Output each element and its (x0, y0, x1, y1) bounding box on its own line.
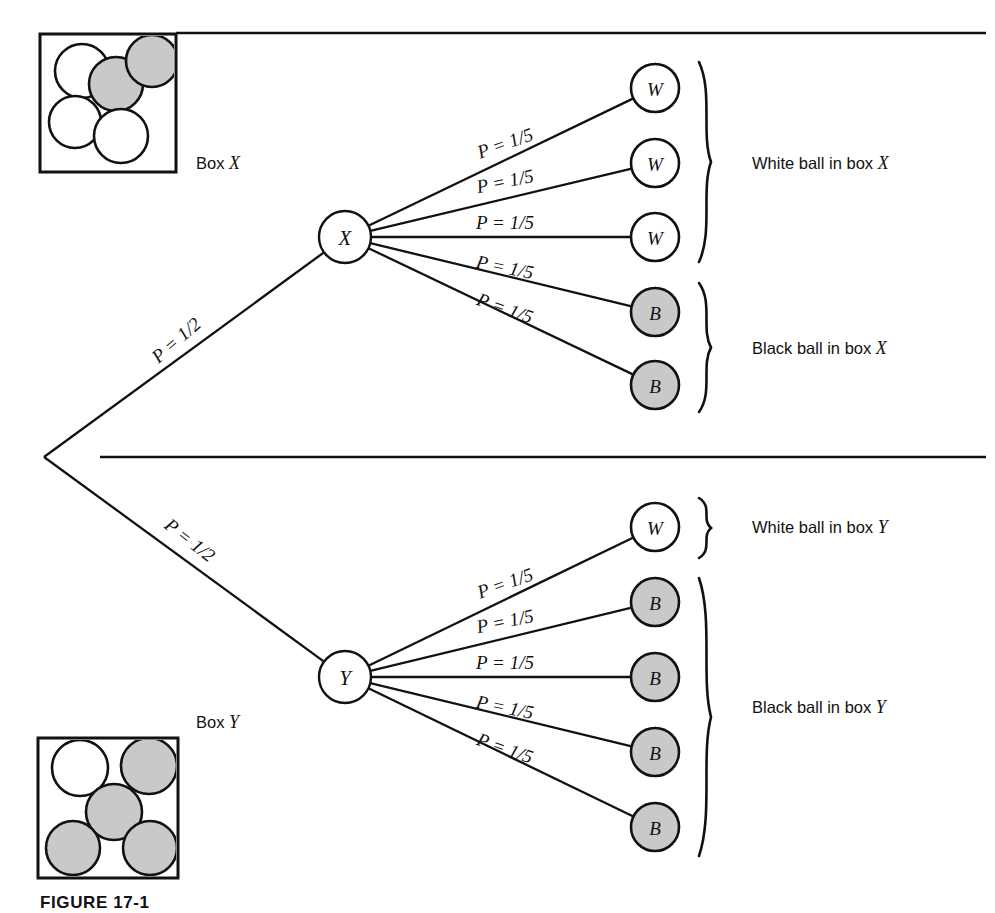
terminal-x-1-letter: W (647, 79, 665, 100)
prob-label-y-5: P = 1/5 (473, 728, 536, 767)
terminal-y-3-letter: B (649, 668, 661, 689)
terminal-x-3-letter: W (647, 228, 665, 249)
prob-label-y-4: P = 1/5 (474, 691, 536, 723)
branch-root-to-y (44, 457, 324, 662)
probability-tree-figure: Box XBox Y XY WWWBBWBBBB P = 1/2P = 1/2P… (0, 0, 995, 913)
prob-label-y-3: P = 1/5 (475, 652, 534, 673)
box-y-label-letter: Y (229, 712, 241, 732)
branch-root-to-x (44, 252, 324, 457)
terminal-y-2-letter: B (649, 593, 661, 614)
prob-label-x-3: P = 1/5 (475, 212, 534, 233)
branch-y-1 (368, 537, 633, 665)
group-black-x-label: Black ball in box X (752, 338, 888, 358)
group-white-y-label: White ball in box Y (752, 517, 890, 537)
outcome-braces (699, 62, 711, 856)
tree-diagram-canvas: Box XBox Y XY WWWBBWBBBB P = 1/2P = 1/2P… (0, 0, 995, 913)
node-x-letter: X (338, 226, 353, 250)
figure-caption-group: FIGURE 17-1 (40, 893, 150, 912)
group-black-y-label: Black ball in box Y (752, 697, 888, 717)
group-white-x-brace (699, 62, 711, 262)
prob-label-stage1-2: P = 1/2 (160, 513, 220, 566)
outcome-labels: White ball in box XBlack ball in box XWh… (752, 153, 890, 717)
box-y-ball-2-black (121, 738, 177, 794)
terminal-y-5-letter: B (649, 818, 661, 839)
figure-caption: FIGURE 17-1 (40, 893, 150, 912)
box-x-ball-5-white (94, 109, 148, 163)
terminal-x-2-letter: W (647, 154, 665, 175)
group-white-y-brace (699, 498, 711, 558)
terminal-x-5-letter: B (649, 376, 661, 397)
group-black-y-brace (699, 578, 711, 856)
group-white-x-label-letter: X (877, 153, 890, 173)
divider-lines (100, 33, 986, 457)
box-x-label-letter: X (228, 153, 241, 173)
group-black-x-brace (699, 283, 711, 412)
branch-x-1 (368, 98, 633, 225)
box-x-ball-4-black (126, 35, 178, 87)
prob-label-x-4: P = 1/5 (474, 251, 536, 283)
group-white-x-label: White ball in box X (752, 153, 890, 173)
group-black-y-label-letter: Y (876, 697, 888, 717)
box-x-label: Box X (196, 153, 241, 173)
prob-label-x-5: P = 1/5 (473, 288, 536, 327)
box-y-ball-5-black (123, 821, 177, 875)
terminal-y-4-letter: B (649, 743, 661, 764)
terminal-y-1-letter: W (647, 518, 665, 539)
prob-label-y-1: P = 1/5 (473, 563, 536, 602)
box-y-label: Box Y (196, 712, 241, 732)
prob-label-x-1: P = 1/5 (473, 123, 536, 162)
group-black-x-label-letter: X (875, 338, 888, 358)
terminal-x-4-letter: B (649, 303, 661, 324)
group-white-y-label-letter: Y (878, 517, 890, 537)
box-y-ball-4-black (46, 821, 100, 875)
